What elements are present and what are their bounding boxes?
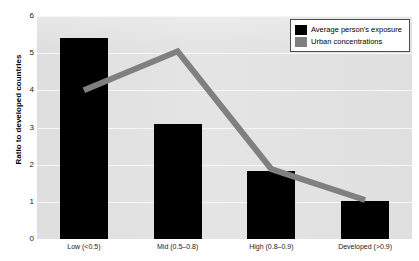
y-axis-tick-label: 3 bbox=[22, 124, 34, 132]
x-axis-tick-label: Mid (0.5–0.8) bbox=[157, 243, 198, 250]
urban-concentrations-line bbox=[84, 51, 365, 200]
legend-item-label: Urban concentrations bbox=[311, 37, 382, 47]
gray-square-swatch bbox=[295, 37, 307, 47]
legend-item-urban-concentrations: Urban concentrations bbox=[295, 36, 405, 47]
y-axis-tick-label: 2 bbox=[22, 161, 34, 169]
y-axis-tick-label: 6 bbox=[22, 12, 34, 20]
legend-item-average-persons-exposure: Average person's exposure bbox=[295, 24, 405, 35]
chart-figure: Ratio to developed countries 0123456 Low… bbox=[0, 0, 419, 261]
chart-legend: Average person's exposure Urban concentr… bbox=[290, 19, 410, 52]
legend-item-label: Average person's exposure bbox=[311, 25, 402, 35]
x-axis-tick-labels: Low (<0.5)Mid (0.5–0.8)High (0.8–0.9)Dev… bbox=[37, 243, 412, 257]
y-axis-tick-label: 1 bbox=[22, 198, 34, 206]
y-axis-tick-label: 4 bbox=[22, 86, 34, 94]
y-axis-tick-label: 0 bbox=[22, 235, 34, 243]
x-axis-tick-label: High (0.8–0.9) bbox=[249, 243, 293, 250]
y-axis-tick-label: 5 bbox=[22, 49, 34, 57]
y-axis-tick-labels: 0123456 bbox=[22, 0, 34, 261]
x-axis-tick-label: Low (<0.5) bbox=[67, 243, 100, 250]
black-square-swatch bbox=[295, 25, 307, 35]
x-axis-tick-label: Developed (>0.9) bbox=[338, 243, 392, 250]
